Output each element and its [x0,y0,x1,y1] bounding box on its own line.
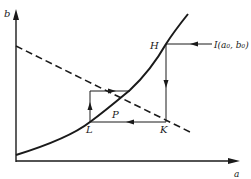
arrow-h-to-k [164,44,169,122]
arrow-i-to-h [166,42,212,47]
point-l-label: L [85,124,93,135]
diagram-canvas: b a H I(a₀, b₀) K L P [0,0,251,179]
y-axis [13,9,19,162]
x-axis [16,158,240,164]
y-axis-label: b [4,8,10,19]
arrow-k-to-l [90,120,166,125]
x-axis-label: a [234,169,239,179]
dashed-line [16,46,190,132]
arrow-top-right [90,89,130,94]
point-k-label: K [159,124,168,135]
point-p-label: P [111,109,119,120]
y-axis-arrow-icon [13,9,19,20]
point-i-label: I(a₀, b₀) [213,40,249,50]
point-h-label: H [149,40,159,51]
arrow-l-up [88,91,93,122]
x-axis-arrow-icon [228,158,240,164]
